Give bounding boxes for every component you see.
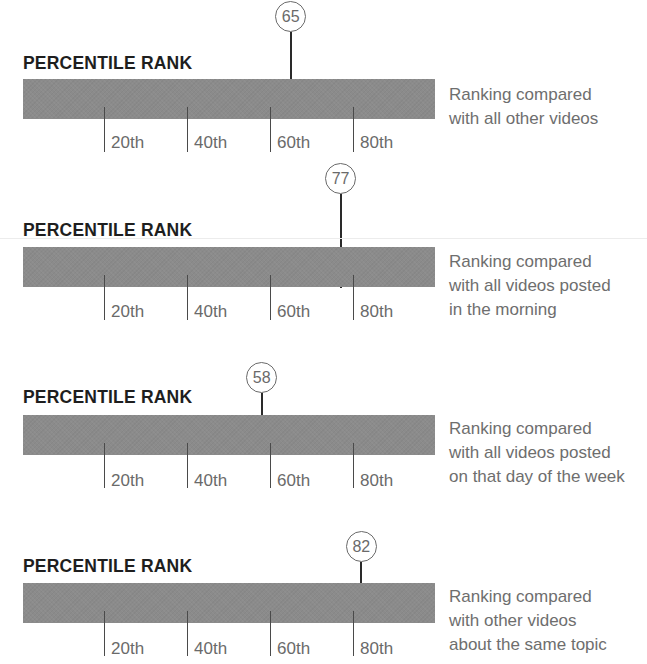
section-description: Ranking compared with all other videos (449, 83, 598, 131)
tick-60 (270, 275, 271, 320)
tick-label-80: 80th (360, 471, 393, 491)
tick-label-60: 60th (277, 302, 310, 322)
description-line: about the same topic (449, 633, 607, 657)
value-bubble: 82 (346, 531, 377, 562)
description-line: Ranking compared (449, 417, 625, 441)
description-line: with other videos (449, 609, 607, 633)
tick-40 (187, 443, 188, 488)
section-description: Ranking compared with other videos about… (449, 585, 607, 657)
tick-20 (104, 275, 105, 320)
section-description: Ranking compared with all videos posted … (449, 417, 625, 489)
tick-label-60: 60th (277, 639, 310, 659)
tick-40 (187, 611, 188, 656)
value-bubble: 58 (246, 362, 277, 393)
tick-label-80: 80th (360, 302, 393, 322)
value-bubble: 77 (325, 163, 356, 194)
description-line: Ranking compared (449, 585, 607, 609)
description-line: Ranking compared (449, 250, 611, 274)
description-line: in the morning (449, 298, 611, 322)
percentile-section-day-of-week: 58 PERCENTILE RANK 20th 40th 60th 80th R… (0, 355, 647, 505)
tick-60 (270, 443, 271, 488)
section-title: PERCENTILE RANK (23, 387, 192, 408)
tick-60 (270, 107, 271, 152)
tick-label-40: 40th (194, 471, 227, 491)
value-bubble: 65 (275, 1, 306, 32)
section-description: Ranking compared with all videos posted … (449, 250, 611, 322)
tick-40 (187, 275, 188, 320)
percentile-bar (23, 583, 435, 623)
tick-20 (104, 107, 105, 152)
tick-20 (104, 443, 105, 488)
tick-80 (353, 107, 354, 152)
description-line: with all other videos (449, 107, 598, 131)
tick-label-60: 60th (277, 471, 310, 491)
tick-80 (353, 611, 354, 656)
tick-label-80: 80th (360, 133, 393, 153)
tick-label-80: 80th (360, 639, 393, 659)
tick-40 (187, 107, 188, 152)
percentile-bar (23, 415, 435, 455)
tick-label-20: 20th (111, 133, 144, 153)
percentile-bar (23, 247, 435, 287)
tick-label-20: 20th (111, 471, 144, 491)
description-line: on that day of the week (449, 465, 625, 489)
tick-80 (353, 443, 354, 488)
tick-label-40: 40th (194, 302, 227, 322)
tick-20 (104, 611, 105, 656)
tick-label-40: 40th (194, 133, 227, 153)
divider-line (0, 238, 647, 239)
tick-label-60: 60th (277, 133, 310, 153)
tick-label-20: 20th (111, 639, 144, 659)
percentile-bar (23, 79, 435, 119)
description-line: with all videos posted (449, 441, 625, 465)
percentile-section-same-topic: 82 PERCENTILE RANK 20th 40th 60th 80th R… (0, 525, 647, 664)
percentile-section-morning: 77 PERCENTILE RANK 20th 40th 60th 80th R… (0, 160, 647, 335)
section-title: PERCENTILE RANK (23, 556, 192, 577)
tick-label-40: 40th (194, 639, 227, 659)
percentile-section-all-videos: 65 PERCENTILE RANK 20th 40th 60th 80th R… (0, 0, 647, 165)
tick-60 (270, 611, 271, 656)
tick-label-20: 20th (111, 302, 144, 322)
description-line: with all videos posted (449, 274, 611, 298)
tick-80 (353, 275, 354, 320)
section-title: PERCENTILE RANK (23, 53, 192, 74)
description-line: Ranking compared (449, 83, 598, 107)
